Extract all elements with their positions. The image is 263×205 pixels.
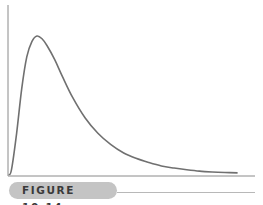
figure-label-rule — [117, 192, 255, 193]
figure-label: FIGURE 10.14 — [9, 182, 117, 199]
chart — [0, 0, 263, 180]
distribution-curve — [9, 36, 238, 175]
